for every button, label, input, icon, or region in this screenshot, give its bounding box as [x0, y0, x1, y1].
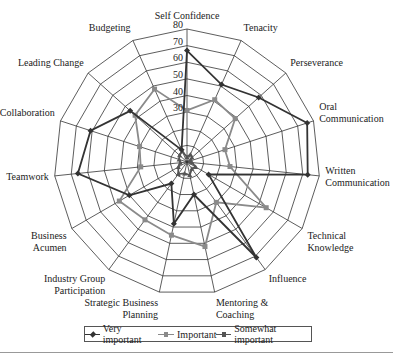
radar-grid [55, 29, 320, 292]
axis-label: Collaboration [0, 107, 55, 118]
legend-label: Very important [103, 323, 158, 345]
square-marker-icon [185, 108, 190, 113]
tick-label: 30 [173, 102, 183, 113]
legend-label: Important [177, 329, 216, 340]
square-marker-icon [137, 144, 142, 149]
square-marker-icon [169, 233, 174, 238]
divider [0, 352, 393, 353]
axis-label: TechnicalKnowledge [307, 230, 354, 253]
legend-item-important: Important [158, 329, 216, 340]
square-marker-icon [264, 205, 269, 210]
square-marker-icon [233, 116, 238, 121]
legend-item-somewhat-important: Somewhat important [216, 323, 311, 345]
square-marker-icon [227, 164, 232, 169]
axis-label: Budgeting [89, 22, 131, 33]
diamond-marker-icon [168, 181, 174, 187]
grid-spoke [61, 121, 187, 162]
radar-chart: Self ConfidenceTenacityPerseveranceOralC… [0, 0, 393, 358]
legend-item-very-important: Very important [85, 323, 158, 345]
axis-label: Industry GroupParticipation [44, 273, 105, 296]
tick-label: 40 [173, 86, 183, 97]
diamond-marker-icon [75, 170, 81, 176]
axis-label: Leading Change [18, 57, 84, 68]
square-marker-icon [222, 147, 227, 152]
square-marker-icon [212, 97, 217, 102]
square-marker-icon [142, 217, 147, 222]
square-marker-icon [117, 199, 122, 204]
tick-label: 50 [173, 69, 183, 80]
grid-spoke [187, 121, 313, 162]
legend: Very important Important Somewhat import… [84, 326, 312, 342]
square-marker-icon [152, 87, 157, 92]
triangle-marker-icon [216, 330, 231, 339]
square-marker-icon [138, 164, 143, 169]
tick-label: 60 [173, 52, 183, 63]
axis-label: WrittenCommunication [325, 165, 389, 188]
axis-label: Self Confidence [155, 10, 220, 21]
axis-label: Tenacity [244, 22, 278, 33]
axis-label: Strategic BusinessPlanning [84, 297, 158, 320]
radar-series [75, 48, 311, 261]
diamond-marker-icon [88, 128, 94, 134]
axis-label: Influence [269, 273, 307, 284]
axis-label: Mentoring &Coaching [216, 297, 269, 320]
diamond-marker-icon [305, 172, 311, 178]
axis-label: Teamwork [6, 171, 49, 182]
tick-label: 70 [173, 36, 183, 47]
axis-label: Perseverance [290, 57, 343, 68]
series-line [78, 51, 308, 258]
legend-label: Somewhat important [234, 323, 311, 345]
tick-labels: 304050607080 [173, 19, 183, 113]
axis-label: BusinessAcumen [31, 230, 67, 253]
diamond-marker-icon [85, 330, 100, 339]
tick-label: 80 [173, 19, 183, 30]
axis-label: OralCommunication [319, 101, 383, 124]
square-marker-icon [202, 244, 207, 249]
square-marker-icon [158, 330, 174, 339]
square-marker-icon [214, 200, 219, 205]
